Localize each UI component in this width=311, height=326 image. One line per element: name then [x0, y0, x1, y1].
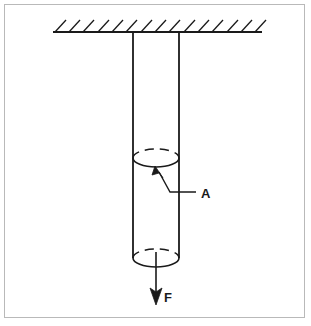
leader-line-A: [152, 166, 196, 192]
force-arrow-F: [150, 252, 162, 305]
leader-arrowhead: [152, 166, 163, 178]
cross-section-front-arc: [133, 158, 179, 167]
label-cross-section-A: A: [201, 186, 211, 201]
ceiling-hatching: [55, 20, 266, 32]
cross-section-back-arc: [133, 149, 179, 158]
mechanics-diagram: Hanging cylindrical rod under axial tens…: [0, 0, 311, 326]
ceiling-support: [53, 20, 266, 32]
figure-canvas: Hanging cylindrical rod under axial tens…: [0, 0, 311, 326]
cross-section-ellipse: [133, 149, 179, 167]
label-force-F: F: [164, 290, 172, 305]
leader-polyline: [159, 172, 196, 192]
rod-body: [133, 32, 179, 258]
